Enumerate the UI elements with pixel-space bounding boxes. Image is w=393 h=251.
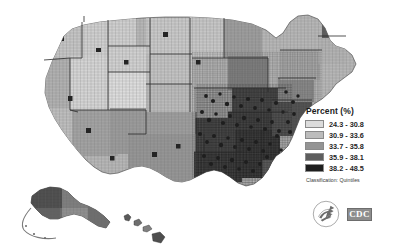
legend-item: 30.9 - 33.6 bbox=[305, 130, 389, 140]
legend-swatch-class-3 bbox=[305, 142, 324, 150]
legend-label-class-1: 24.3 - 30.8 bbox=[329, 120, 364, 129]
cdc-logo: CDC bbox=[347, 208, 372, 221]
map-legend: Percent (%) 24.3 - 30.8 30.9 - 33.6 33.7… bbox=[305, 106, 389, 183]
aleutian-island-dot bbox=[44, 237, 46, 239]
legend-swatch-class-2 bbox=[305, 131, 324, 139]
legend-title: Percent (%) bbox=[306, 106, 389, 116]
legend-item: 38.2 - 48.5 bbox=[305, 163, 389, 173]
cdc-logo-text: CDC bbox=[349, 210, 369, 219]
legend-item: 35.9 - 38.1 bbox=[305, 152, 389, 162]
legend-label-class-2: 30.9 - 33.6 bbox=[329, 131, 364, 140]
legend-label-class-5: 38.2 - 48.5 bbox=[329, 164, 364, 173]
legend-item: 33.7 - 35.8 bbox=[305, 141, 389, 151]
legend-label-class-4: 35.9 - 38.1 bbox=[329, 153, 364, 162]
choropleth-map-figure: Percent (%) 24.3 - 30.8 30.9 - 33.6 33.7… bbox=[0, 0, 393, 251]
legend-item: 24.3 - 30.8 bbox=[305, 119, 389, 129]
legend-classification-note: Classification: Quintiles bbox=[306, 177, 389, 183]
hhs-eagle-seal bbox=[311, 199, 341, 229]
legend-swatch-class-1 bbox=[305, 120, 324, 128]
agency-logos: CDC bbox=[311, 199, 372, 229]
legend-swatch-class-4 bbox=[305, 153, 324, 161]
legend-swatch-class-5 bbox=[305, 164, 324, 172]
legend-label-class-3: 33.7 - 35.8 bbox=[329, 142, 364, 151]
aleutian-island-dot bbox=[25, 225, 27, 227]
aleutian-island-dot bbox=[33, 233, 35, 235]
